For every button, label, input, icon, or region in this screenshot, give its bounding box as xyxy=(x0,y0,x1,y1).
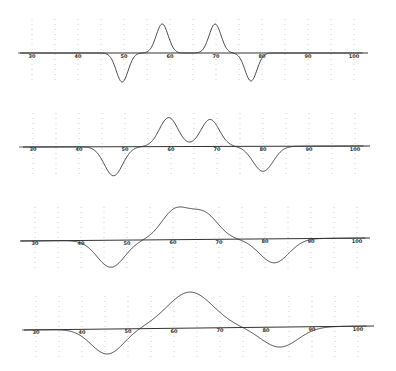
x-tick-label: 60 xyxy=(171,328,178,334)
x-tick-label: 50 xyxy=(122,146,129,152)
plot-4: 30405060708090100 xyxy=(22,292,374,360)
chart-stack: 3040506070809010030405060708090100304050… xyxy=(0,0,396,371)
data-curve xyxy=(22,292,366,354)
x-tick-label: 50 xyxy=(125,328,132,334)
x-tick-label: 60 xyxy=(168,146,175,152)
x-tick-label: 50 xyxy=(121,53,128,59)
plot-2: 30405060708090100 xyxy=(19,113,370,177)
x-tick-label: 80 xyxy=(263,327,270,333)
x-tick-label: 70 xyxy=(216,239,223,245)
x-tick-label: 80 xyxy=(260,146,267,152)
x-tick-label: 40 xyxy=(79,329,86,335)
x-tick-label: 60 xyxy=(170,239,177,245)
data-curve xyxy=(18,24,362,82)
stacked-line-plots: 3040506070809010030405060708090100304050… xyxy=(0,0,396,371)
x-tick-label: 60 xyxy=(167,53,174,59)
x-tick-label: 80 xyxy=(262,238,269,244)
x-tick-label: 70 xyxy=(217,327,224,333)
x-tick-label: 50 xyxy=(124,240,131,246)
x-tick-label: 70 xyxy=(213,53,220,59)
plot-1: 30405060708090100 xyxy=(18,19,368,83)
x-tick-label: 70 xyxy=(214,146,221,152)
plot-3: 30405060708090100 xyxy=(20,207,370,271)
